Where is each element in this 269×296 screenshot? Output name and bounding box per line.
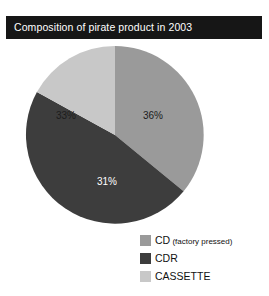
legend-label-cd: CD (factory pressed) [155,235,232,246]
pie-label-cd: 36% [143,111,163,121]
legend-item-cd: CD (factory pressed) [140,233,265,248]
legend-swatch-cdr [140,253,151,264]
page-title: Composition of pirate product in 2003 [6,22,192,33]
legend-swatch-cd [140,235,151,246]
legend-label-cdr-main: CDR [155,252,178,264]
pie-label-cassette: 33% [56,111,76,121]
pie-chart: 36% 31% 33% [25,45,205,225]
legend-item-cdr: CDR [140,251,265,266]
legend-label-cd-sub: (factory pressed) [170,237,232,246]
chart-legend: CD (factory pressed) CDR CASSETTE [140,233,265,287]
pie-chart-svg [25,45,205,225]
legend-item-cassette: CASSETTE [140,269,265,284]
legend-label-cassette-main: CASSETTE [155,270,210,282]
pie-label-cdr: 31% [97,177,117,187]
chart-page: Composition of pirate product in 2003 36… [0,0,269,296]
chart-title-banner: Composition of pirate product in 2003 [6,16,262,39]
legend-label-cd-main: CD [155,234,170,246]
legend-swatch-cassette [140,271,151,282]
legend-label-cassette: CASSETTE [155,271,210,282]
legend-label-cdr: CDR [155,253,178,264]
